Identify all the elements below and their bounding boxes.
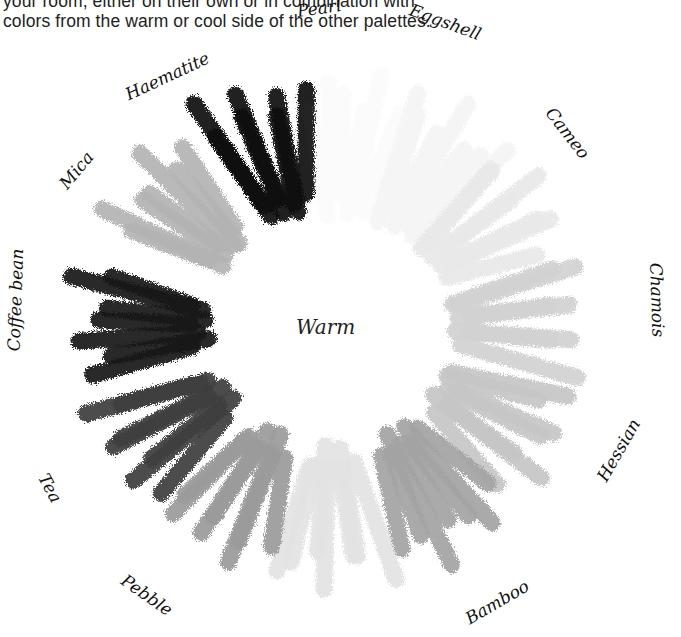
swatch-hessian [434, 372, 568, 484]
label-coffee-bean: Coffee bean [4, 248, 28, 351]
swatch-coffee-bean [72, 277, 209, 375]
warm-center-label: Warm [296, 315, 355, 339]
swatch-chamois [453, 267, 578, 378]
swatch-mica [103, 147, 240, 265]
label-chamois: Chamois [646, 262, 669, 337]
